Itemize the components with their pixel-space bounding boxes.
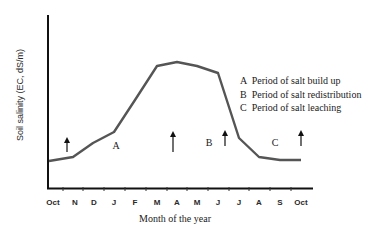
region-label-b: B — [206, 137, 213, 148]
region-label-c: C — [272, 137, 279, 148]
tick-label: Oct — [294, 198, 308, 207]
arrow-up-icon — [298, 130, 304, 146]
tick-label: M — [194, 198, 201, 207]
legend-item-a: A Period of salt build up — [240, 75, 341, 86]
tick-label: Oct — [46, 198, 60, 207]
arrow-up-icon — [222, 130, 228, 146]
x-tick-labels: Oct N D J F M A M J J A S Oct — [46, 198, 308, 207]
salinity-chart: Oct N D J F M A M J J A S Oct Month of t… — [0, 0, 385, 235]
legend-item-b: B Period of salt redistribution — [240, 89, 361, 100]
x-axis-title: Month of the year — [139, 213, 212, 224]
tick-label: D — [91, 198, 97, 207]
tick-label: J — [237, 198, 241, 207]
tick-label: A — [256, 198, 262, 207]
tick-label: J — [216, 198, 220, 207]
tick-label: M — [154, 198, 161, 207]
legend-item-c: C Period of salt leaching — [240, 102, 341, 113]
tick-label: J — [112, 198, 116, 207]
tick-label: A — [174, 198, 180, 207]
region-label-a: A — [112, 140, 120, 151]
y-axis-title: Soil salinity (EC, dS/m) — [15, 49, 25, 141]
tick-label: N — [72, 198, 78, 207]
tick-label: S — [277, 198, 283, 207]
arrow-up-icon — [170, 131, 176, 152]
arrow-up-icon — [64, 137, 70, 152]
legend: A Period of salt build up B Period of sa… — [240, 75, 361, 113]
tick-label: F — [133, 198, 138, 207]
